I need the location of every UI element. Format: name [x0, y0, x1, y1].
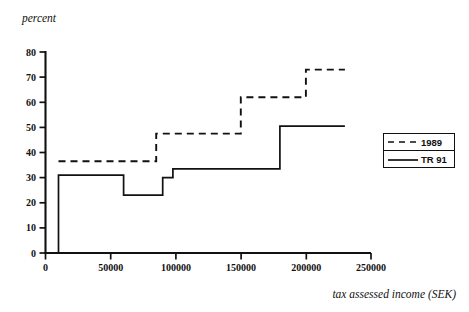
y-tick-label: 40	[26, 147, 36, 158]
legend-solid-line-icon	[387, 155, 419, 165]
series-line-1989	[59, 70, 345, 162]
legend-label-tr91: TR 91	[421, 154, 447, 165]
y-tick-label: 60	[26, 97, 36, 108]
y-tick-label: 0	[31, 248, 36, 259]
y-tick-labels: 80 70 60 50 40 30 20 10 0	[26, 47, 36, 259]
legend-entry-1989: 1989	[384, 134, 454, 151]
x-axis-title: tax assessed income (SEK)	[332, 288, 456, 301]
x-tick-label: 150000	[226, 262, 256, 273]
x-tick-labels: 0 50000 100000 150000 200000 250000	[43, 262, 386, 273]
y-tick-label: 80	[26, 47, 36, 58]
x-tick-label: 100000	[161, 262, 191, 273]
chart-container: 80 70 60 50 40 30 20 10 0 0 50000 100000…	[0, 0, 469, 312]
y-tick-label: 70	[26, 72, 36, 83]
x-tick-label: 250000	[356, 262, 386, 273]
legend-entry-tr91: TR 91	[384, 151, 454, 168]
chart-legend: 1989 TR 91	[383, 133, 455, 168]
y-tick-label: 50	[26, 122, 36, 133]
x-tick-label: 50000	[98, 262, 123, 273]
y-tick-label: 20	[26, 197, 36, 208]
legend-label-1989: 1989	[421, 137, 442, 148]
legend-dashed-line-icon	[387, 137, 419, 147]
series-line-tr91	[46, 126, 345, 253]
x-tick-label: 0	[43, 262, 48, 273]
y-axis-title: percent	[21, 12, 57, 25]
y-tick-label: 10	[26, 222, 36, 233]
x-tick-label: 200000	[291, 262, 321, 273]
y-tick-label: 30	[26, 172, 36, 183]
